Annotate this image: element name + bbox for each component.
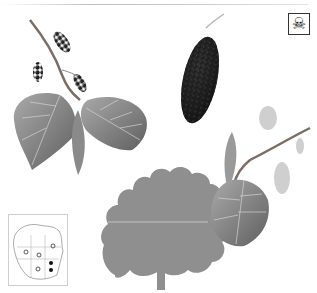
tree-silhouette <box>101 167 229 290</box>
catkin-flowers <box>259 106 304 194</box>
fruiting-branch <box>14 20 147 175</box>
north-america-map <box>9 215 67 285</box>
large-fruit <box>174 14 226 127</box>
small-fruit-1 <box>50 29 74 56</box>
small-fruit-3 <box>71 72 90 94</box>
leaf-right <box>81 97 147 150</box>
skull-crossbones-icon: ☠ <box>288 13 310 35</box>
small-fruit-2 <box>33 62 43 82</box>
range-map <box>8 214 68 286</box>
flowering-branch <box>211 106 310 246</box>
botanical-plate: ☠ <box>0 0 317 293</box>
